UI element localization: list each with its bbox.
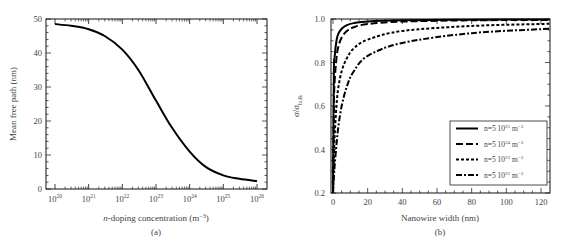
- y-tick-label: 20: [34, 116, 43, 126]
- x-tick-label: 80: [467, 197, 476, 207]
- figure: 102010211022102310241025102601020304050 …: [0, 0, 569, 248]
- x-tick-label: 0: [331, 197, 335, 207]
- mean-free-path-curve: [55, 24, 257, 181]
- x-tick-label: 1024: [183, 193, 197, 204]
- x-axis-label-a: n-doping concentration (m−3): [103, 213, 208, 223]
- legend: n=5 1025 m−3n=5 1024 m−3n=5 1023 m−3n=5 …: [450, 121, 547, 185]
- x-tick-label: 1023: [149, 193, 163, 204]
- x-tick-label: 1025: [216, 193, 230, 204]
- legend-label: n=5 1023 m−3: [484, 155, 524, 164]
- axis-ticks-a: 102010211022102310241025102601020304050: [34, 14, 268, 204]
- y-tick-label: 10: [34, 150, 43, 160]
- y-tick-label: 0.8: [314, 58, 325, 68]
- x-tick-label: 120: [535, 197, 548, 207]
- y-tick-label: 1.0: [314, 14, 325, 24]
- panel-label-a: (a): [151, 227, 161, 237]
- x-tick-label: 100: [500, 197, 513, 207]
- y-axis-label-b: σ/σbulk: [291, 95, 303, 117]
- x-tick-label: 1026: [250, 193, 264, 204]
- x-tick-label: 60: [433, 197, 442, 207]
- panel-label-b: (b): [435, 227, 446, 237]
- x-axis-label-b: Nanowire width (nm): [401, 213, 479, 223]
- x-tick-label: 1021: [82, 193, 96, 204]
- y-axis-label-a: Mean free path (nm): [8, 67, 18, 141]
- chart-panel-a: 102010211022102310241025102601020304050 …: [8, 14, 267, 237]
- plot-frame-a: [46, 19, 267, 189]
- y-tick-label: 30: [34, 82, 43, 92]
- legend-label: n=5 1022 m−3: [484, 171, 524, 180]
- y-tick-label: 0.2: [314, 188, 325, 198]
- x-tick-label: 40: [398, 197, 407, 207]
- legend-label: n=5 1024 m−3: [484, 140, 524, 149]
- x-tick-label: 1022: [115, 193, 129, 204]
- x-tick-label: 1020: [48, 193, 62, 204]
- chart-panel-b: 0204060801001200.20.40.60.81.0 σ/σbulk N…: [291, 14, 550, 237]
- y-tick-label: 50: [34, 14, 43, 24]
- y-tick-label: 40: [34, 48, 43, 58]
- y-tick-label: 0.4: [314, 145, 325, 155]
- y-tick-label: 0.6: [314, 101, 325, 111]
- legend-label: n=5 1025 m−3: [484, 124, 524, 133]
- x-tick-label: 20: [363, 197, 372, 207]
- y-tick-label: 0: [38, 184, 42, 194]
